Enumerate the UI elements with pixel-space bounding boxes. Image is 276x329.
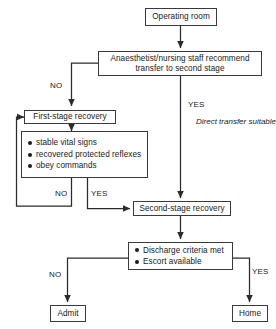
bullet-icon: [135, 248, 139, 252]
edge-label-anaesthetist-no: NO: [50, 81, 62, 90]
node-first-stage-criteria[interactable]: stable vital signs recovered protected r…: [21, 131, 148, 178]
edge-anaesthetist-no: [72, 63, 99, 106]
annotation-line2: suitable for: [248, 117, 276, 126]
edge-label-discharge-yes: YES: [252, 267, 269, 276]
flowchart-canvas: Operating room Anaesthetist/nursing staf…: [0, 0, 276, 329]
bullet-icon: [28, 141, 32, 145]
discharge-criteria-item-label: Escort available: [143, 256, 202, 268]
bullet-icon: [28, 164, 32, 168]
node-home-label: Home: [239, 309, 261, 319]
node-discharge-criteria[interactable]: Discharge criteria met Escort available: [128, 242, 233, 270]
node-first-stage-recovery[interactable]: First-stage recovery: [24, 110, 116, 124]
criteria-item: recovered protected reflexes: [28, 149, 141, 161]
node-home[interactable]: Home: [232, 305, 268, 322]
node-admit[interactable]: Admit: [50, 305, 86, 322]
discharge-criteria-item: Discharge criteria met: [135, 245, 224, 257]
criteria-item-label: recovered protected reflexes: [36, 149, 141, 161]
criteria-item-label: obey commands: [36, 160, 97, 172]
node-second-stage-recovery-label: Second-stage recovery: [139, 204, 224, 214]
node-admit-label: Admit: [57, 309, 78, 319]
node-first-stage-recovery-label: First-stage recovery: [33, 112, 106, 122]
node-operating-room[interactable]: Operating room: [145, 8, 217, 26]
edge-discharge-no: [68, 258, 129, 302]
node-operating-room-label: Operating room: [152, 12, 210, 22]
node-anaesthetist-recommend[interactable]: Anaesthetist/nursing staff recommend tra…: [98, 51, 262, 76]
discharge-criteria-item: Escort available: [135, 256, 202, 268]
criteria-item: stable vital signs: [28, 137, 97, 149]
bullet-icon: [135, 260, 139, 264]
edge-discharge-yes: [233, 258, 250, 302]
annotation-line1: Direct transfer: [196, 117, 246, 126]
edge-label-criteria-no: NO: [55, 189, 67, 198]
bullet-icon: [28, 153, 32, 157]
edge-label-discharge-no: NO: [49, 270, 61, 279]
criteria-item: obey commands: [28, 160, 97, 172]
edge-label-criteria-yes: YES: [91, 189, 108, 198]
criteria-item-label: stable vital signs: [36, 137, 97, 149]
edge-label-anaesthetist-yes: YES: [188, 100, 205, 109]
annotation-direct-transfer: Direct transfer suitable for selected pa…: [196, 117, 276, 128]
node-anaesthetist-line1: Anaesthetist/nursing staff recommend: [110, 54, 249, 64]
discharge-criteria-item-label: Discharge criteria met: [143, 245, 224, 257]
node-anaesthetist-line2: transfer to second stage: [135, 64, 224, 74]
node-second-stage-recovery[interactable]: Second-stage recovery: [133, 201, 231, 216]
